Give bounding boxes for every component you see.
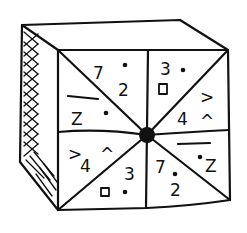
sector-bottom-left-upper: > 4 ^ — [68, 144, 114, 176]
svg-text:^: ^ — [200, 111, 214, 131]
svg-text:2: 2 — [170, 180, 181, 200]
svg-text:>: > — [200, 87, 214, 107]
sector-top-left-lower: Z — [68, 96, 108, 129]
sector-bottom-right-upper: Z — [178, 143, 217, 176]
cube-diagram: 7 2 Z 3 > 4 ^ > 4 ^ 3 — [0, 0, 247, 233]
svg-text:3: 3 — [160, 59, 171, 79]
cross-hatching — [24, 32, 57, 196]
svg-text:4: 4 — [177, 109, 188, 129]
sector-top-left-upper: 7 2 — [93, 63, 129, 100]
cube-drawing: 7 2 Z 3 > 4 ^ > 4 ^ 3 — [0, 0, 247, 233]
svg-text:4: 4 — [80, 156, 91, 176]
sector-bottom-right-lower: 7 2 — [155, 157, 181, 200]
sector-top-right-lower: > 4 ^ — [177, 87, 214, 131]
svg-text:3: 3 — [124, 164, 135, 184]
svg-text:7: 7 — [93, 63, 104, 83]
svg-text:^: ^ — [100, 144, 114, 164]
svg-text:Z: Z — [205, 156, 217, 176]
sector-top-right-upper: 3 — [159, 59, 185, 94]
svg-text:Z: Z — [71, 109, 83, 129]
cube-left-face — [20, 25, 58, 210]
center-dot — [139, 127, 155, 143]
svg-text:2: 2 — [118, 80, 129, 100]
cube-top-face — [22, 20, 228, 50]
svg-text:7: 7 — [155, 157, 166, 177]
